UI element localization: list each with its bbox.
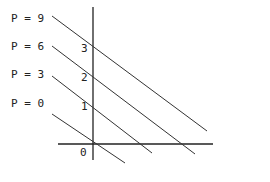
label-p0: P = 0	[11, 98, 44, 109]
label-p3: P = 3	[11, 69, 44, 80]
label-p6: P = 6	[11, 41, 44, 52]
line-p6	[52, 46, 195, 154]
y-tick-2: 2	[81, 72, 88, 83]
line-p3	[52, 76, 152, 153]
diagram-canvas	[0, 0, 270, 182]
label-p9: P = 9	[11, 13, 44, 24]
y-tick-0: 0	[80, 147, 87, 158]
line-p9	[52, 16, 207, 131]
y-tick-3: 3	[81, 43, 88, 54]
y-tick-1: 1	[81, 101, 88, 112]
line-p0	[52, 114, 125, 163]
iso-line-diagram: P = 9 P = 6 P = 3 P = 0 3 2 1 0	[0, 0, 270, 182]
